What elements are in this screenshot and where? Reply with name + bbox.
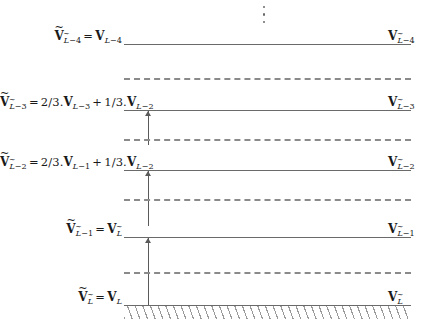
vertical-dots-icon (262, 6, 266, 23)
level-label-right-L: V~L (388, 291, 403, 304)
level-line-L-4 (124, 44, 411, 45)
level-label-left-L-4: ~V~L−4=VL−4 (0, 30, 122, 43)
level-label-left-L-2: ~V~L−2=2/3.VL−1+1/3.VL−2 (0, 156, 122, 169)
level-label-right-L-4: V~L−4 (388, 30, 415, 43)
level-line-L-3 (124, 110, 411, 111)
dashed-line-mid-lower (124, 199, 411, 201)
level-line-L-2 (124, 170, 411, 171)
dot (263, 13, 265, 15)
dot (263, 6, 265, 8)
level-label-left-L-1: ~V~L−1=V~L (0, 223, 122, 236)
dashed-line-bottom (124, 272, 411, 274)
level-label-right-L-1: V~L−1 (388, 223, 415, 236)
multigrid-level-diagram: ~V~L−4=VL−4 V~L−4 ~V~L−3=2/3.VL−3+1/3.VL… (0, 0, 435, 333)
dot (263, 21, 265, 23)
level-label-left-L: ~V~L=VL (0, 291, 122, 304)
level-label-right-L-2: V~L−2 (388, 156, 415, 169)
level-label-right-L-3: V~L−3 (388, 96, 415, 109)
level-label-left-L-3: ~V~L−3=2/3.VL−3+1/3.VL−2 (0, 96, 122, 109)
dashed-line-mid-upper (124, 139, 411, 141)
level-line-L-1 (124, 237, 411, 238)
dashed-line-top (124, 78, 411, 80)
hatched-boundary (124, 306, 411, 319)
